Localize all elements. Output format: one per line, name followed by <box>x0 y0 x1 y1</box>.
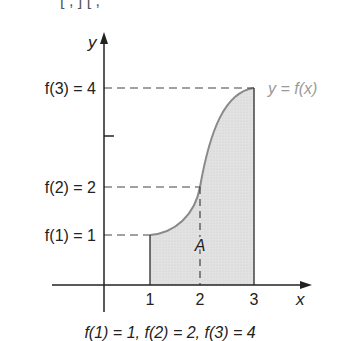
label-f2: f(2) = 2 <box>45 179 96 196</box>
y-axis-label: y <box>87 33 98 52</box>
diagram: [ , ] [ , y x 1 2 3 f(3) = 4 f(2) = 2 f(… <box>0 0 341 341</box>
y-axis-arrow-icon <box>100 32 108 44</box>
shaded-area <box>150 88 254 285</box>
x-tick-2: 2 <box>196 291 205 308</box>
x-tick-3: 3 <box>250 291 259 308</box>
x-tick-1: 1 <box>146 291 155 308</box>
x-axis-arrow-icon <box>300 281 312 289</box>
area-label: A <box>194 237 206 254</box>
curve-label: y = f(x) <box>267 80 317 97</box>
caption: f(1) = 1, f(2) = 2, f(3) = 4 <box>84 324 255 341</box>
area-under-curve-figure: [ , ] [ , y x 1 2 3 f(3) = 4 f(2) = 2 f(… <box>0 0 341 341</box>
label-f1: f(1) = 1 <box>45 227 96 244</box>
top-fragment: [ , ] [ , <box>60 0 100 9</box>
label-f3: f(3) = 4 <box>45 80 96 97</box>
x-axis-label: x <box>295 290 305 309</box>
